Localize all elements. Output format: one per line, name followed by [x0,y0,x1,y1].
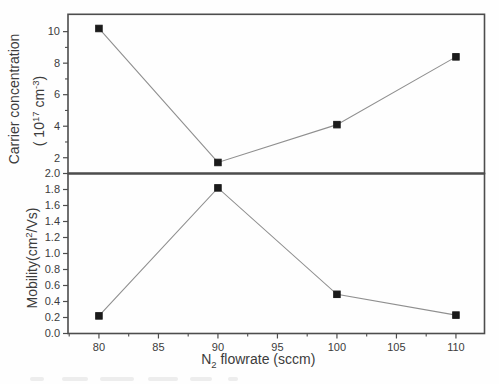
x-tick-label: 100 [328,341,346,353]
mobility-ylabel-part: Mobility(cm [24,238,40,309]
carrier-ylabel-line2-part: 17 [30,111,41,122]
mobility-series-marker [453,312,460,319]
caption-smudge [100,377,134,381]
mobility-series-line [99,188,456,316]
x-axis-label-part: N [201,351,211,367]
y-tick-label: 0.2 [45,311,60,323]
carrier-series-marker [215,159,222,166]
dual-panel-line-chart: 2468100.00.20.40.60.81.01.21.41.61.82.08… [0,0,499,384]
carrier-ylabel-line2-part: -3 [30,80,41,88]
caption-smudge [62,377,88,381]
y-tick-label: 1.4 [45,215,60,227]
y-tick-label: 1.6 [45,199,60,211]
y-tick-label: 2.0 [45,167,60,179]
x-axis-label: N2 flowrate (sccm) [201,351,315,370]
y-tick-label: 0.0 [45,327,60,339]
top-panel-frame [68,14,485,173]
caption-smudge [30,377,44,381]
y-tick-label: 0.4 [45,295,60,307]
mobility-series-marker [334,291,341,298]
cropped-caption-fragment [0,376,499,382]
mobility-ylabel: Mobility(cm2/Vs) [23,208,40,309]
y-tick-label: 1.2 [45,231,60,243]
caption-smudge [190,377,212,381]
y-tick-label: 8 [54,57,60,69]
y-tick-label: 1.8 [45,183,60,195]
caption-smudge [228,377,238,381]
mobility-ylabel-part: /Vs) [24,208,40,233]
caption-smudge [148,377,178,381]
carrier-ylabel-line2-part: ) [31,76,47,81]
y-tick-label: 10 [48,25,60,37]
carrier-series-marker [334,121,341,128]
figure-canvas: 2468100.00.20.40.60.81.01.21.41.61.82.08… [0,0,499,384]
carrier-ylabel-line2: ( 1017 cm-3) [30,76,47,146]
y-tick-label: 0.6 [45,279,60,291]
y-tick-label: 0.8 [45,263,60,275]
carrier-series-marker [96,25,103,32]
x-tick-label: 85 [152,341,164,353]
y-tick-label: 4 [54,120,60,132]
carrier-series-marker [453,54,460,61]
x-tick-label: 105 [387,341,405,353]
mobility-series-marker [215,185,222,192]
carrier-series-line [99,28,456,162]
carrier-ylabel-line2-part: ( 10 [31,122,47,146]
y-tick-label: 2 [54,152,60,164]
x-tick-label: 80 [93,341,105,353]
x-tick-label: 110 [447,341,465,353]
mobility-series-marker [96,313,103,320]
carrier-ylabel-line1: Carrier concentration [6,34,22,165]
y-tick-label: 6 [54,88,60,100]
carrier-ylabel-line2-part: cm [31,89,47,112]
x-axis-label-part: flowrate (sccm) [217,351,316,367]
y-tick-label: 1.0 [45,247,60,259]
